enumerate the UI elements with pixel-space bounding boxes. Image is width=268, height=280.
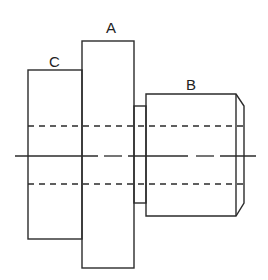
neck-outline: [134, 106, 146, 203]
part-c-outline: [28, 70, 82, 239]
part-a-outline: [82, 41, 134, 268]
label-b: B: [186, 76, 196, 93]
label-a: A: [106, 19, 116, 36]
shaft-drawing-canvas: A C B: [0, 0, 268, 280]
label-c: C: [49, 53, 60, 70]
technical-drawing: A C B: [0, 0, 268, 280]
part-b-outline: [146, 94, 244, 216]
